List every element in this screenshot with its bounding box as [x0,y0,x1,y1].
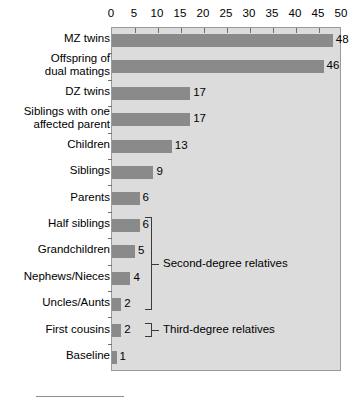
x-axis-tick-label-5: 5 [122,6,146,20]
bar [112,113,190,126]
annotation-bracket [145,323,152,337]
bar [112,87,190,100]
category-label-line: affected parent [0,118,110,131]
bar [112,351,117,364]
x-axis-tick-label-10: 10 [145,6,169,20]
category-label: DZ twins [0,85,110,98]
category-label: Siblings [0,164,110,177]
x-axis-tick-label-25: 25 [214,6,238,20]
bar-value-label: 13 [175,139,188,152]
x-axis-tick-35 [273,28,274,33]
category-label: Parents [0,191,110,204]
category-label: Half siblings [0,217,110,230]
y-axis-tick [108,80,112,81]
x-axis-tick-20 [204,28,205,33]
x-axis-tick-15 [181,28,182,33]
y-axis-tick [108,185,112,186]
footer-divider [36,396,124,397]
y-axis-tick [108,133,112,134]
category-label-line: Children [0,138,110,151]
category-label: Offspring ofdual matings [0,52,110,77]
bar-value-label: 17 [193,112,206,125]
bar [112,219,140,232]
category-label: Siblings with oneaffected parent [0,105,110,130]
category-label-line: MZ twins [0,32,110,45]
bar [112,34,333,47]
x-axis-tick-labels: 05101520253035404550 [0,6,353,22]
category-label: Baseline [0,349,110,362]
category-label-line: DZ twins [0,85,110,98]
x-axis-tick-label-30: 30 [237,6,261,20]
bar-value-label: 5 [138,244,144,257]
category-label-line: Siblings [0,164,110,177]
annotation-label: Third-degree relatives [163,323,275,336]
category-label: Grandchildren [0,243,110,256]
category-label-line: Grandchildren [0,243,110,256]
annotation-bracket-stem [152,264,159,265]
category-label-line: Nephews/Nieces [0,270,110,283]
x-axis-tick-label-20: 20 [191,6,215,20]
bar [112,272,130,285]
bar-value-label: 1 [120,350,126,363]
x-axis-tick-45 [319,28,320,33]
category-label-line: dual matings [0,65,110,78]
category-label-line: Siblings with one [0,105,110,118]
bar [112,60,324,73]
category-label-line: First cousins [0,323,110,336]
bar-value-label: 46 [327,59,340,72]
x-axis-tick-25 [227,28,228,33]
category-label: Children [0,138,110,151]
bar [112,166,153,179]
annotation-bracket-stem [152,330,159,331]
x-axis-tick-label-15: 15 [168,6,192,20]
y-axis-tick [108,159,112,160]
x-axis-tick-label-40: 40 [283,6,307,20]
category-label-line: Uncles/Aunts [0,296,110,309]
bar [112,324,121,337]
bar-value-label: 4 [133,271,139,284]
x-axis-tick-10 [158,28,159,33]
category-label-line: Half siblings [0,217,110,230]
annotation-bracket [145,217,152,310]
x-axis-tick-label-35: 35 [260,6,284,20]
bar-value-label: 17 [193,86,206,99]
bar-value-label: 6 [143,191,149,204]
bar [112,192,140,205]
x-axis-tick-30 [250,28,251,33]
category-label: MZ twins [0,32,110,45]
bar-value-label: 2 [124,323,130,336]
category-label: Nephews/Nieces [0,270,110,283]
bar [112,140,172,153]
bar [112,298,121,311]
x-axis-tick-label-45: 45 [306,6,330,20]
y-axis-tick [108,265,112,266]
x-axis-tick-label-0: 0 [99,6,123,20]
category-label-line: Parents [0,191,110,204]
y-axis-tick [108,317,112,318]
x-axis-tick-label-50: 50 [329,6,353,20]
bar [112,245,135,258]
x-axis-tick-5 [135,28,136,33]
annotation-label: Second-degree relatives [163,257,288,270]
bar-value-label: 2 [124,297,130,310]
category-label: First cousins [0,323,110,336]
bar-value-label: 48 [336,33,349,46]
category-label: Uncles/Aunts [0,296,110,309]
y-axis-tick [108,212,112,213]
category-label-line: Offspring of [0,52,110,65]
bar-value-label: 9 [156,165,162,178]
bar-chart: 05101520253035404550 MZ twinsOffspring o… [0,0,353,412]
y-axis-tick [108,291,112,292]
x-axis-tick-40 [296,28,297,33]
y-axis-tick [108,238,112,239]
category-label-line: Baseline [0,349,110,362]
y-axis-tick [108,344,112,345]
